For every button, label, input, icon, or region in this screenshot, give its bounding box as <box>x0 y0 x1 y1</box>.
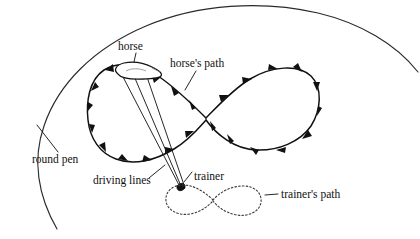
horse-body-shape <box>116 62 162 79</box>
label-horse: horse <box>118 40 143 52</box>
path-arrow-icon <box>87 102 93 112</box>
path-arrow-icon <box>227 134 234 144</box>
horses-path-right-loop <box>206 68 319 150</box>
trainer-group <box>176 182 186 191</box>
trainers-path-left-loop <box>166 185 213 214</box>
leader-line-trainers-path <box>265 194 278 195</box>
label-driving-lines: driving lines <box>93 174 151 187</box>
path-arrow-icon <box>250 147 259 155</box>
path-arrow-icon <box>268 64 278 70</box>
leader-line-horses-path <box>185 71 196 90</box>
diagram-canvas: horse horse's path round pen driving lin… <box>0 0 420 239</box>
horse-group <box>116 62 162 79</box>
label-horses-path: horse's path <box>170 57 224 70</box>
label-round-pen: round pen <box>32 153 79 166</box>
leader-line-horse <box>134 53 136 62</box>
round-pen-group <box>38 6 418 229</box>
path-arrow-icon <box>293 63 302 72</box>
round-pen-arc <box>38 6 418 229</box>
leader-line-driving-lines <box>149 165 165 178</box>
labels-group: horse horse's path round pen driving lin… <box>32 40 340 201</box>
path-arrow-icon <box>142 155 152 162</box>
leader-line-trainer <box>184 172 192 182</box>
label-trainer: trainer <box>194 170 224 182</box>
trainers-path-right-loop <box>213 186 261 215</box>
diagram-figure: horse horse's path round pen driving lin… <box>0 0 420 239</box>
label-trainers-path: trainer's path <box>281 188 340 201</box>
horses-path-group <box>87 65 319 162</box>
driving-line-left <box>122 75 179 185</box>
horses-path-arrowheads <box>87 63 322 162</box>
driving-line-right <box>146 74 184 185</box>
path-arrow-icon <box>189 100 196 110</box>
trainer-marker <box>176 182 186 191</box>
